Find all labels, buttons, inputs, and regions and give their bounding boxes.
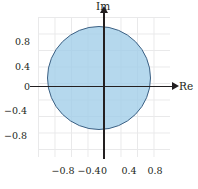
real-axis-line <box>30 86 174 88</box>
y-tick-label-0.4: 0.4 <box>4 61 30 72</box>
y-tick-label-neg0.4: −0.4 <box>1 105 27 116</box>
x-tick-label-neg0.8: −0.8 <box>50 165 76 176</box>
real-axis-label: Re <box>179 80 193 92</box>
y-tick-label-0: 0 <box>4 81 30 92</box>
y-tick-label-0.8: 0.8 <box>4 36 30 47</box>
x-tick-label-0: 0 <box>91 165 117 176</box>
x-tick-label-0.4: 0.4 <box>116 165 142 176</box>
x-tick-label-0.8: 0.8 <box>142 165 168 176</box>
complex-plane-unit-disk-figure: Im Re 0.8 0.4 0 −0.4 −0.8 −0.8 −0.4 0 0.… <box>0 0 198 189</box>
real-axis-arrow-icon <box>172 82 179 90</box>
imaginary-axis-line <box>103 12 105 159</box>
y-tick-label-neg0.8: −0.8 <box>1 130 27 141</box>
imaginary-axis-label: Im <box>96 0 110 12</box>
unit-disk-region <box>47 26 151 130</box>
